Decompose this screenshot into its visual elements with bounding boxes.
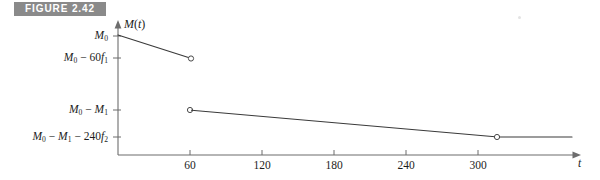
y-tick-label-m0: M0 — [0, 30, 108, 42]
curve-segment-first — [118, 35, 190, 58]
plot-svg — [0, 0, 600, 180]
figure-canvas: FIGURE 2.42 M(t) t — [0, 0, 600, 180]
x-tick-label-240: 240 — [397, 160, 414, 172]
y-tick-label-m0-m1: M0 − M1 — [0, 104, 108, 116]
x-tick-label-180: 180 — [325, 160, 342, 172]
x-axis-name: t — [578, 158, 581, 170]
y-axis-arrowhead — [115, 20, 122, 29]
open-circle-end-first-segment — [188, 56, 193, 61]
y-axis-name-text: M(t) — [124, 17, 145, 31]
y-tick-label-m0-m1-240f2: M0 − M1 − 240f2 — [0, 131, 108, 143]
x-tick-label-300: 300 — [469, 160, 486, 172]
x-tick-label-120: 120 — [253, 160, 270, 172]
y-tick-label-m0-60f1: M0 − 60f1 — [0, 52, 108, 64]
y-axis-name: M(t) — [124, 18, 145, 30]
open-circle-end-second-segment — [494, 134, 499, 139]
x-tick-label-60: 60 — [184, 160, 196, 172]
curve-segment-second — [192, 110, 496, 137]
